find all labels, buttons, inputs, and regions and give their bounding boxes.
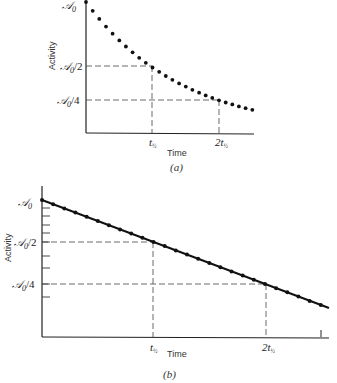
data-point xyxy=(124,45,128,49)
chart-b-ytick-quarter: 𝒜0/4 xyxy=(12,278,35,293)
data-point xyxy=(104,25,108,29)
chart-b-ytick-a0: 𝒜0 xyxy=(18,196,32,211)
data-point xyxy=(84,0,88,4)
data-point xyxy=(107,223,111,227)
data-point xyxy=(144,61,148,65)
data-point xyxy=(151,66,155,70)
chart-b-xtick-thalf: t½ xyxy=(150,341,158,354)
data-point xyxy=(184,85,188,89)
data-point xyxy=(237,105,241,109)
chart-b-caption: (b) xyxy=(163,368,176,381)
chart-a-x-axis xyxy=(86,133,254,134)
data-point xyxy=(197,91,201,95)
chart-a-ytick-quarter: 𝒜0/4 xyxy=(57,94,80,109)
chart-b-x-axis xyxy=(42,337,329,338)
chart-a-caption: (a) xyxy=(170,161,183,174)
data-point xyxy=(274,286,278,290)
data-point xyxy=(62,206,66,210)
data-point xyxy=(185,253,189,257)
data-point xyxy=(171,78,175,82)
chart-b: 𝒜0 𝒜0/2 𝒜0/4 t½ 2t½ Time Activity (b) xyxy=(3,186,329,381)
data-point xyxy=(174,248,178,252)
data-point xyxy=(97,17,101,21)
data-point xyxy=(241,274,245,278)
data-point xyxy=(319,303,323,307)
chart-a-ylabel: Activity xyxy=(47,41,57,70)
data-point xyxy=(207,261,211,265)
data-point xyxy=(177,82,181,86)
data-point xyxy=(204,94,208,98)
chart-b-ytick-half: 𝒜0/2 xyxy=(14,236,37,251)
data-point xyxy=(210,96,214,100)
chart-b-xlabel: Time xyxy=(167,349,187,359)
data-point xyxy=(250,108,254,112)
data-point xyxy=(137,56,141,60)
data-point xyxy=(224,101,228,105)
chart-a-ytick-a0: 𝒜0 xyxy=(62,0,76,14)
data-point xyxy=(196,257,200,261)
data-point xyxy=(96,219,100,223)
chart-b-xtick-2thalf: 2t½ xyxy=(262,341,276,354)
data-point xyxy=(152,240,156,244)
data-point xyxy=(244,106,248,110)
data-point xyxy=(308,299,312,303)
data-point xyxy=(164,74,168,78)
data-point xyxy=(296,295,300,299)
chart-a-xtick-thalf: t½ xyxy=(149,136,157,149)
chart-a-ytick-half: 𝒜0/2 xyxy=(60,60,83,75)
data-point xyxy=(131,50,135,54)
data-point xyxy=(230,103,234,107)
data-point xyxy=(163,244,167,248)
data-point xyxy=(252,278,256,282)
data-point xyxy=(118,227,122,231)
data-point xyxy=(85,215,89,219)
figure: 𝒜0 𝒜0/2 𝒜0/4 t½ 2t½ Time Activity (a) 𝒜0… xyxy=(0,0,337,383)
chart-a-xtick-2thalf: 2t½ xyxy=(215,136,229,149)
data-point xyxy=(129,232,133,236)
chart-a: 𝒜0 𝒜0/2 𝒜0/4 t½ 2t½ Time Activity (a) xyxy=(47,0,254,174)
data-point xyxy=(51,202,55,206)
chart-b-ylabel: Activity xyxy=(3,233,13,262)
data-point xyxy=(218,265,222,269)
data-point xyxy=(157,70,161,74)
data-point xyxy=(263,282,267,286)
data-point xyxy=(73,211,77,215)
chart-a-data-points xyxy=(84,0,254,112)
data-point xyxy=(191,88,195,92)
data-point xyxy=(140,236,144,240)
chart-a-xlabel: Time xyxy=(167,148,187,158)
data-point xyxy=(117,39,121,43)
data-point xyxy=(40,198,44,202)
data-point xyxy=(111,32,115,36)
data-point xyxy=(230,269,234,273)
data-point xyxy=(285,290,289,294)
data-point xyxy=(217,98,221,102)
data-point xyxy=(91,9,95,13)
